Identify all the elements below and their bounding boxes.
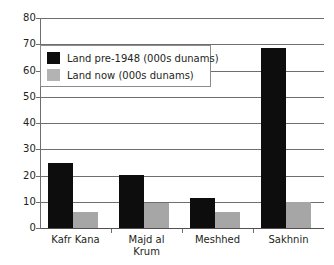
- y-tick-mark-70: [36, 44, 40, 45]
- x-axis-label-3: Sakhnin: [253, 234, 324, 246]
- y-tick-label-10: 10: [6, 197, 36, 207]
- y-tick-label-20: 20: [6, 171, 36, 181]
- bar-chart: 01020304050607080 Land pre-1948 (000s du…: [0, 0, 334, 265]
- x-tick-mark-1: [111, 229, 112, 233]
- legend-item-land-now: Land now (000s dunams): [47, 68, 194, 82]
- bar-0-1: [119, 175, 144, 228]
- bar-0-3: [261, 48, 286, 228]
- bar-0-2: [190, 198, 215, 228]
- y-tick-mark-10: [36, 202, 40, 203]
- chart-legend: Land pre-1948 (000s dunams) Land now (00…: [40, 45, 211, 87]
- gridline-80: [40, 18, 324, 19]
- legend-swatch-icon-light: [47, 69, 60, 81]
- bar-1-1: [144, 203, 169, 228]
- y-tick-mark-20: [36, 176, 40, 177]
- y-tick-label-0: 0: [6, 223, 36, 233]
- y-tick-mark-60: [36, 71, 40, 72]
- y-tick-mark-80: [36, 18, 40, 19]
- bar-0-0: [48, 163, 73, 228]
- y-tick-label-50: 50: [6, 92, 36, 102]
- y-tick-label-60: 60: [6, 66, 36, 76]
- legend-label: Land pre-1948 (000s dunams): [67, 53, 219, 64]
- y-tick-label-80: 80: [6, 13, 36, 23]
- x-axis-label-1: Majd al Krum: [111, 234, 182, 257]
- x-axis-label-2: Meshhed: [182, 234, 253, 246]
- bar-1-3: [286, 202, 311, 228]
- y-tick-label-70: 70: [6, 39, 36, 49]
- y-tick-mark-50: [36, 97, 40, 98]
- x-axis-label-0: Kafr Kana: [40, 234, 111, 246]
- y-tick-label-40: 40: [6, 118, 36, 128]
- x-tick-mark-3: [253, 229, 254, 233]
- y-tick-mark-0: [36, 228, 40, 229]
- y-tick-label-30: 30: [6, 144, 36, 154]
- legend-item-land-pre-1948: Land pre-1948 (000s dunams): [47, 51, 219, 65]
- bar-1-0: [73, 212, 98, 228]
- y-tick-mark-40: [36, 123, 40, 124]
- legend-label: Land now (000s dunams): [67, 70, 194, 81]
- legend-swatch-icon-dark: [47, 52, 60, 64]
- y-tick-mark-30: [36, 149, 40, 150]
- x-tick-mark-2: [182, 229, 183, 233]
- bar-1-2: [215, 212, 240, 228]
- y-axis: 01020304050607080: [0, 0, 36, 265]
